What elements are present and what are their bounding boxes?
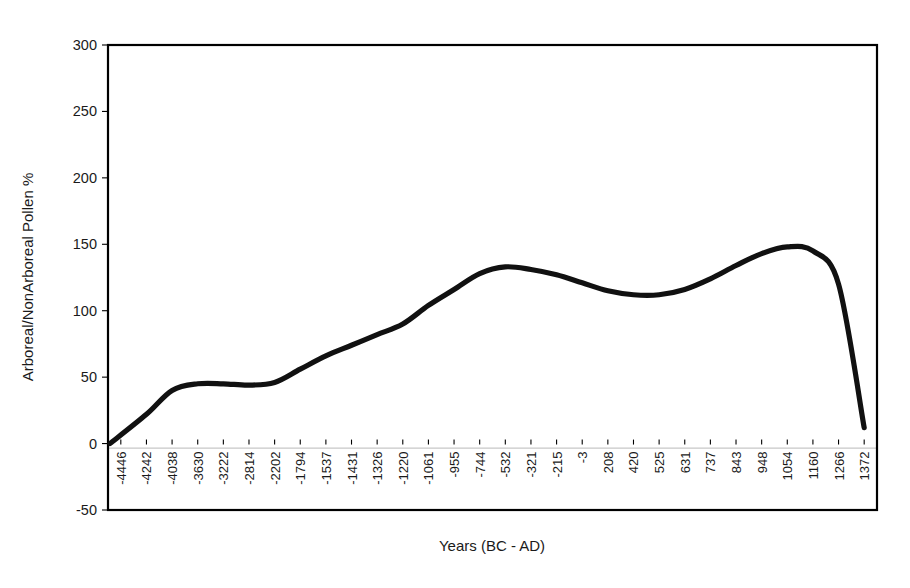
x-tick-label: -4446 — [114, 452, 129, 485]
x-tick-label: 208 — [601, 452, 616, 474]
x-tick-label: 1160 — [806, 452, 821, 480]
y-tick-label: 50 — [81, 369, 97, 385]
x-tick-label: -955 — [447, 452, 462, 478]
y-axis-title: Arboreal/NonArboreal Pollen % — [19, 173, 36, 381]
y-tick-label: 250 — [73, 103, 97, 119]
chart-container: Arboreal/NonArboreal Pollen % -500501001… — [0, 0, 910, 588]
y-tick-label: 100 — [73, 303, 97, 319]
x-tick-label: 420 — [626, 452, 641, 474]
x-tick-label: -1794 — [293, 452, 308, 485]
x-tick-label: -1220 — [396, 452, 411, 485]
x-tick-label: -4038 — [165, 452, 180, 485]
x-tick-label: 525 — [652, 452, 667, 474]
x-tick-label: -3630 — [191, 452, 206, 485]
y-tick-label: 300 — [73, 37, 97, 53]
pollen-line-chart: Arboreal/NonArboreal Pollen % -500501001… — [0, 0, 910, 588]
x-tick-label: -4242 — [139, 452, 154, 485]
x-tick-label: -2814 — [242, 452, 257, 485]
x-tick-label: 843 — [729, 452, 744, 474]
y-tick-label: 0 — [89, 436, 97, 452]
x-tick-label: 1266 — [832, 452, 847, 481]
chart-background — [0, 0, 910, 588]
x-tick-label: -321 — [524, 452, 539, 478]
y-tick-label: -50 — [76, 502, 97, 518]
x-tick-label: -744 — [473, 452, 488, 478]
x-tick-label: -3222 — [216, 452, 231, 485]
x-axis-title: Years (BC - AD) — [439, 537, 545, 554]
x-tick-label: 1054 — [780, 452, 795, 481]
x-tick-label: -1431 — [345, 452, 360, 485]
x-tick-label: -2202 — [268, 452, 283, 485]
x-tick-label: 1372 — [857, 452, 872, 481]
y-tick-label: 200 — [73, 170, 97, 186]
x-tick-label: -532 — [498, 452, 513, 478]
x-tick-label: 631 — [678, 452, 693, 474]
x-tick-label: -1537 — [319, 452, 334, 485]
y-tick-label: 150 — [73, 236, 97, 252]
x-tick-label: -3 — [575, 452, 590, 464]
x-tick-label: -1326 — [370, 452, 385, 485]
x-tick-label: -1061 — [421, 452, 436, 485]
x-tick-label: -215 — [550, 452, 565, 478]
x-tick-label: 948 — [755, 452, 770, 474]
x-tick-label: 737 — [703, 452, 718, 474]
